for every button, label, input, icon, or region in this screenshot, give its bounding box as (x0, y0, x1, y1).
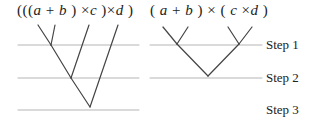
right-tree-branch (163, 27, 177, 44)
right-tree-branch (228, 27, 239, 44)
left-tree-branch (51, 25, 55, 45)
step-3-label: Step 3 (266, 102, 299, 118)
right-tree-branch (208, 44, 239, 76)
right-tree-branch (177, 27, 188, 44)
step-2-label: Step 2 (266, 70, 299, 86)
step-1-label: Step 1 (266, 37, 299, 53)
left-tree-branch (51, 45, 71, 78)
right-tree-branch (239, 27, 252, 44)
left-tree-branch (90, 25, 118, 107)
left-tree-branch (38, 25, 51, 45)
left-tree-branch (71, 25, 89, 78)
right-tree-branch (177, 44, 208, 76)
left-tree-branch (71, 78, 90, 107)
